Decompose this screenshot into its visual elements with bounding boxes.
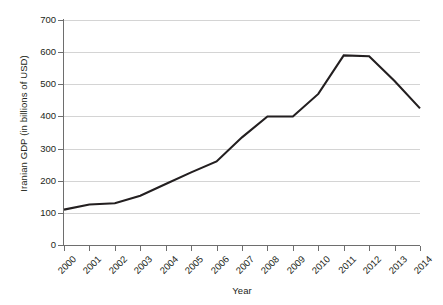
x-tick-mark-2011 — [344, 246, 345, 251]
x-tick-mark-2007 — [242, 246, 243, 251]
gridline-700 — [64, 20, 420, 21]
y-tick-label-wrap-200: 200 — [20, 176, 56, 186]
y-tick-label: 500 — [26, 79, 56, 89]
x-tick-mark-2004 — [166, 246, 167, 251]
x-tick-mark-2005 — [191, 246, 192, 251]
y-tick-label: 200 — [26, 176, 56, 186]
y-tick-label: 600 — [26, 47, 56, 57]
x-tick-mark-2000 — [64, 246, 65, 251]
x-tick-mark-2014 — [420, 246, 421, 251]
y-tick-label: 700 — [26, 15, 56, 25]
line-chart: Iranian GDP (in billions of USD) 0100200… — [0, 0, 443, 305]
y-tick-label-wrap-700: 700 — [20, 15, 56, 25]
x-tick-mark-2012 — [369, 246, 370, 251]
x-tick-mark-2002 — [115, 246, 116, 251]
y-tick-label-wrap-600: 600 — [20, 47, 56, 57]
x-axis-title: Year — [64, 285, 420, 296]
x-tick-mark-2010 — [318, 246, 319, 251]
x-tick-mark-2013 — [395, 246, 396, 251]
y-tick-label: 300 — [26, 144, 56, 154]
y-tick-label-wrap-400: 400 — [20, 111, 56, 121]
gridline-500 — [64, 84, 420, 85]
gridline-300 — [64, 149, 420, 150]
y-tick-label: 100 — [26, 208, 56, 218]
gridline-100 — [64, 213, 420, 214]
x-tick-mark-2006 — [217, 246, 218, 251]
y-tick-label: 0 — [26, 240, 56, 250]
y-tick-label-wrap-0: 0 — [20, 240, 56, 250]
gridline-600 — [64, 52, 420, 53]
x-tick-mark-2008 — [267, 246, 268, 251]
y-tick-label: 400 — [26, 111, 56, 121]
y-tick-label-wrap-300: 300 — [20, 144, 56, 154]
x-tick-mark-2001 — [89, 246, 90, 251]
x-tick-mark-2003 — [140, 246, 141, 251]
y-tick-label-wrap-500: 500 — [20, 79, 56, 89]
gridline-200 — [64, 181, 420, 182]
y-tick-label-wrap-100: 100 — [20, 208, 56, 218]
gridline-400 — [64, 116, 420, 117]
plot-area — [64, 20, 420, 245]
x-tick-mark-2009 — [293, 246, 294, 251]
